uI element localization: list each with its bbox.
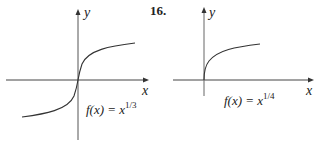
left-function-label: f(x) = x1/3: [86, 101, 137, 116]
right-function-exponent: 1/4: [263, 91, 275, 101]
right-function-label: f(x) = x1/4: [224, 92, 275, 107]
right-x-axis-arrow-icon: [308, 78, 314, 83]
right-y-axis-label: y: [209, 6, 215, 20]
right-x-axis-label: x: [306, 84, 312, 98]
right-curve: [204, 44, 260, 80]
right-graph: [173, 7, 314, 96]
right-y-axis-arrow-icon: [202, 7, 207, 13]
left-x-axis-arrow-icon: [143, 78, 149, 83]
left-y-axis-arrow-icon: [76, 9, 81, 15]
right-function-prefix: f(x) = x: [224, 93, 263, 108]
graphs-canvas: [0, 0, 314, 145]
left-function-exponent: 1/3: [125, 100, 137, 110]
left-function-prefix: f(x) = x: [86, 102, 125, 117]
left-y-axis-label: y: [84, 6, 90, 20]
left-x-axis-label: x: [142, 84, 148, 98]
problem-number: 16.: [150, 4, 166, 17]
left-graph: [6, 9, 149, 140]
